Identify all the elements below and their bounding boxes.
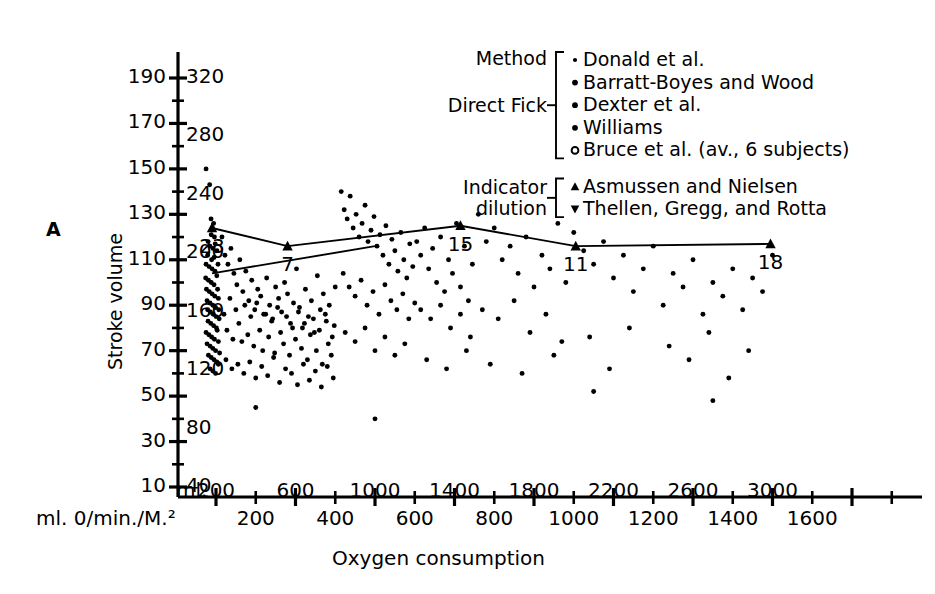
data-point xyxy=(740,307,745,312)
legend-marker-triangle-up xyxy=(571,182,580,190)
data-point xyxy=(204,166,209,171)
legend-header: Method xyxy=(306,47,547,69)
data-point xyxy=(373,416,378,421)
data-point xyxy=(273,285,278,290)
data-point xyxy=(512,298,517,303)
data-point xyxy=(389,237,394,242)
data-point xyxy=(466,298,471,303)
data-point xyxy=(329,353,334,358)
data-point xyxy=(611,276,616,281)
data-point xyxy=(528,330,533,335)
y-tick-label-left-110: 110 xyxy=(96,246,166,270)
data-point xyxy=(366,239,371,244)
legend-entry-label[interactable]: Williams xyxy=(583,116,663,138)
x-unit-label: ml. 0/min./M.² xyxy=(36,506,176,530)
legend-entry-label[interactable]: Dexter et al. xyxy=(583,93,701,115)
legend-entry-label[interactable]: Thellen, Gregg, and Rotta xyxy=(583,197,827,219)
data-point xyxy=(601,239,606,244)
data-point xyxy=(710,280,715,285)
x-tick-label-bottom-600: 600 xyxy=(370,506,460,530)
legend-marker-dot xyxy=(572,80,578,86)
data-point xyxy=(508,244,513,249)
data-point xyxy=(285,291,290,296)
data-point xyxy=(247,360,252,365)
y-tick-label-right-120: 120 xyxy=(186,356,224,380)
mean-line-label-15: 15 xyxy=(430,232,490,256)
data-point xyxy=(314,348,319,353)
data-point xyxy=(382,335,387,340)
data-point xyxy=(587,335,592,340)
data-point xyxy=(559,339,564,344)
data-point xyxy=(327,303,332,308)
mean-line-label-18: 18 xyxy=(741,250,801,274)
data-point xyxy=(388,298,393,303)
legend-entry-label[interactable]: Barratt-Boyes and Wood xyxy=(583,71,814,93)
data-point xyxy=(323,312,328,317)
data-point xyxy=(671,271,676,276)
y-tick-label-left-10: 10 xyxy=(96,473,166,497)
data-point xyxy=(402,341,407,346)
data-point xyxy=(746,348,751,353)
data-point xyxy=(369,228,374,233)
data-point xyxy=(470,262,475,267)
y-tick-label-left-170: 170 xyxy=(96,109,166,133)
data-point xyxy=(720,294,725,299)
data-point xyxy=(333,285,338,290)
data-point xyxy=(627,325,632,330)
data-point xyxy=(308,332,313,337)
x-tick-label-top-1000: 1000 xyxy=(330,478,420,502)
data-point xyxy=(309,298,314,303)
legend-group-label: dilution xyxy=(306,197,547,219)
data-point xyxy=(458,285,463,290)
data-point xyxy=(750,276,755,281)
data-point xyxy=(235,362,240,367)
x-axis-title: Oxygen consumption xyxy=(332,546,545,570)
data-point xyxy=(307,378,312,383)
data-point xyxy=(229,366,234,371)
data-point xyxy=(343,330,348,335)
data-point xyxy=(540,253,545,258)
data-point xyxy=(215,328,220,333)
x-tick-label-top-2600: 2600 xyxy=(648,478,738,502)
legend-entry-label[interactable]: Asmussen and Nielsen xyxy=(583,175,798,197)
data-point xyxy=(591,389,596,394)
legend-entry-label[interactable]: Bruce et al. (av., 6 subjects) xyxy=(583,138,850,160)
data-point xyxy=(253,405,258,410)
data-point xyxy=(299,346,304,351)
data-point xyxy=(404,276,409,281)
data-point xyxy=(341,271,346,276)
data-point xyxy=(296,310,301,315)
data-point xyxy=(464,348,469,353)
legend-marker-dot xyxy=(572,102,578,108)
data-point xyxy=(318,307,323,312)
legend-group-label: Indicator xyxy=(306,176,547,198)
x-tick-label-bottom-1200: 1200 xyxy=(608,506,698,530)
data-point xyxy=(438,303,443,308)
data-point xyxy=(468,335,473,340)
data-point xyxy=(371,289,376,294)
x-tick-label-top-1800: 1800 xyxy=(489,478,579,502)
x-tick-label-bottom-400: 400 xyxy=(290,506,380,530)
data-point xyxy=(332,323,337,328)
data-point xyxy=(245,332,250,337)
y-tick-label-left-90: 90 xyxy=(96,291,166,315)
data-point xyxy=(251,344,256,349)
data-point xyxy=(700,312,705,317)
data-point xyxy=(359,278,364,283)
y-tick-label-right-320: 320 xyxy=(186,64,224,88)
data-point xyxy=(227,296,232,301)
x-tick-label-bottom-200: 200 xyxy=(211,506,301,530)
data-point xyxy=(254,301,259,306)
data-point xyxy=(293,337,298,342)
data-point xyxy=(496,316,501,321)
data-point xyxy=(365,303,370,308)
data-point xyxy=(444,366,449,371)
data-point xyxy=(363,325,368,330)
data-point xyxy=(301,362,306,367)
legend-entry-label[interactable]: Donald et al. xyxy=(583,48,704,70)
data-point xyxy=(217,350,222,355)
legend-marker-dot xyxy=(572,125,578,131)
data-point xyxy=(516,271,521,276)
data-point xyxy=(426,266,431,271)
data-point xyxy=(216,339,221,344)
